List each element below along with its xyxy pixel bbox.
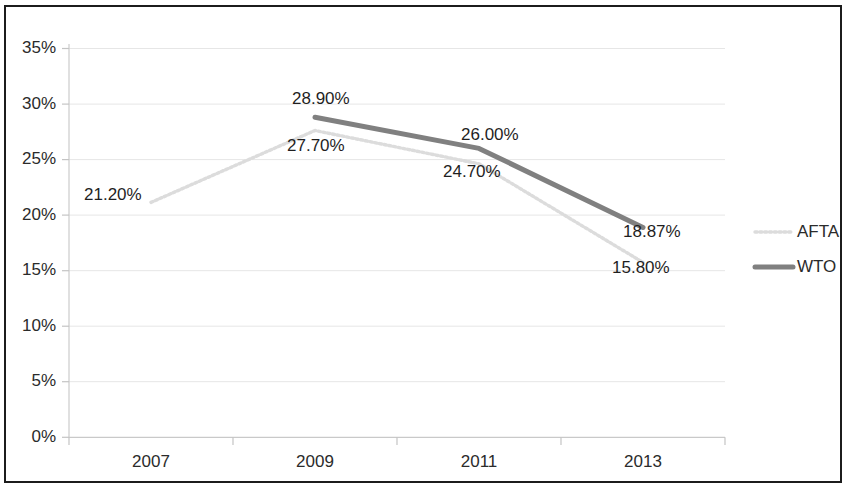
x-tick-label-2011: 2011 <box>419 452 539 472</box>
data-label-wto-2009: 28.90% <box>292 89 350 109</box>
data-label-afta-2011: 24.70% <box>443 162 501 182</box>
y-tick-label-20: 20% <box>0 205 56 225</box>
data-label-afta-2009: 27.70% <box>287 136 345 156</box>
chart-border-frame <box>4 5 842 483</box>
y-tick-label-35: 35% <box>0 38 56 58</box>
y-tick-label-15: 15% <box>0 260 56 280</box>
y-tick-label-10: 10% <box>0 316 56 336</box>
data-label-wto-2011: 26.00% <box>461 125 519 145</box>
x-tick-label-2013: 2013 <box>583 452 703 472</box>
data-label-afta-2007: 21.20% <box>84 185 142 205</box>
y-tick-label-25: 25% <box>0 149 56 169</box>
data-label-afta-2013: 15.80% <box>612 258 670 278</box>
legend-item-afta[interactable]: AFTA <box>797 222 839 242</box>
legend-item-wto[interactable]: WTO <box>797 257 836 277</box>
x-tick-label-2009: 2009 <box>255 452 375 472</box>
y-tick-label-5: 5% <box>0 371 56 391</box>
y-tick-label-0: 0% <box>0 427 56 447</box>
y-tick-label-30: 30% <box>0 94 56 114</box>
x-tick-label-2007: 2007 <box>91 452 211 472</box>
data-label-wto-2013: 18.87% <box>623 222 681 242</box>
